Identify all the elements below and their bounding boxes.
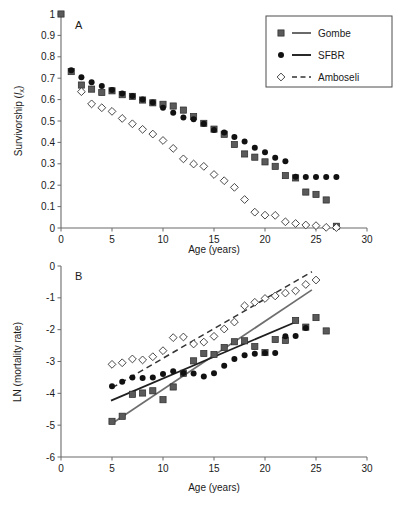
- y-tick-label: 1: [49, 9, 55, 20]
- marker-diamond: [241, 302, 249, 310]
- x-tick-label: 10: [157, 234, 169, 245]
- y-tick-label: 0.1: [41, 201, 55, 212]
- series-sfbr: [109, 325, 309, 389]
- marker-circle: [303, 325, 309, 331]
- marker-diamond: [231, 183, 239, 191]
- marker-circle: [170, 368, 176, 374]
- legend-label-amboseli: Amboseli: [318, 72, 359, 83]
- marker-diamond: [169, 334, 177, 342]
- marker-circle: [140, 375, 146, 381]
- marker-diamond: [220, 325, 228, 333]
- marker-square: [262, 159, 268, 165]
- marker-circle: [140, 97, 146, 103]
- panel-a-svg: 00.10.20.30.40.50.60.70.80.91 0510152025…: [0, 0, 402, 258]
- marker-diamond: [118, 359, 126, 367]
- marker-square: [140, 390, 146, 396]
- marker-diamond: [312, 276, 320, 284]
- marker-diamond: [180, 155, 188, 163]
- marker-circle: [313, 174, 319, 180]
- marker-square: [160, 397, 166, 403]
- panel-b-y-axis-title: LN (mortality rate): [12, 322, 23, 402]
- x-tick-label: 20: [259, 463, 271, 474]
- marker-square: [231, 339, 237, 345]
- marker-square: [252, 154, 258, 160]
- marker-circle: [109, 87, 115, 93]
- marker-circle: [129, 93, 135, 99]
- marker-square: [119, 413, 125, 419]
- marker-circle: [282, 158, 288, 164]
- y-tick-label: -4: [46, 388, 55, 399]
- series-gombe: [109, 314, 329, 424]
- marker-diamond: [159, 347, 167, 355]
- marker-diamond: [271, 292, 279, 300]
- marker-square: [170, 384, 176, 390]
- marker-diamond: [129, 355, 137, 363]
- marker-circle: [262, 350, 268, 356]
- marker-circle: [231, 134, 237, 140]
- marker-diamond: [169, 144, 177, 152]
- panel-b-svg: 0-1-2-3-4-5-6 051015202530 B Age (years)…: [0, 258, 402, 517]
- x-tick-label: 0: [58, 463, 64, 474]
- marker-square: [180, 107, 186, 113]
- marker-diamond: [302, 281, 310, 289]
- panel-a-survivorship: 00.10.20.30.40.50.60.70.80.91 0510152025…: [0, 0, 402, 258]
- marker-square: [252, 343, 258, 349]
- marker-diamond: [251, 298, 259, 306]
- marker-square: [99, 89, 105, 95]
- marker-diamond: [282, 218, 290, 226]
- marker-circle: [160, 105, 166, 111]
- y-tick-label: -3: [46, 356, 55, 367]
- marker-square: [303, 189, 309, 195]
- svg-text:Survivorship (lx): Survivorship (lx): [13, 86, 26, 156]
- x-tick-label: 5: [109, 234, 115, 245]
- series-amboseli: [78, 88, 341, 232]
- legend-label-sfbr: SFBR: [318, 50, 345, 61]
- marker-square: [293, 317, 299, 323]
- marker-circle: [293, 174, 299, 180]
- x-tick-label: 25: [310, 463, 322, 474]
- marker-diamond: [231, 318, 239, 326]
- marker-diamond: [261, 211, 269, 219]
- fit-line-amboseli-fit: [112, 272, 312, 388]
- marker-circle: [170, 110, 176, 116]
- marker-circle: [252, 351, 258, 357]
- y-tick-label: 0.5: [41, 116, 55, 127]
- marker-diamond: [98, 104, 106, 112]
- marker-square: [313, 314, 319, 320]
- marker-diamond: [139, 356, 147, 364]
- y-tick-label: 0.7: [41, 73, 55, 84]
- marker-diamond: [159, 137, 167, 145]
- marker-circle: [119, 91, 125, 97]
- marker-diamond: [241, 196, 249, 204]
- marker-circle: [303, 174, 309, 180]
- y-tick-label: 0: [49, 223, 55, 234]
- legend[interactable]: GombeSFBRAmboseli: [266, 16, 392, 87]
- marker-square: [231, 141, 237, 147]
- marker-diamond: [149, 130, 157, 138]
- marker-circle: [109, 383, 115, 389]
- y-tick-label: -1: [46, 292, 55, 303]
- x-tick-label: 10: [157, 463, 169, 474]
- marker-circle: [119, 379, 125, 385]
- marker-diamond: [108, 107, 116, 115]
- panel-b-x-axis-title: Age (years): [188, 482, 240, 493]
- marker-circle: [160, 371, 166, 377]
- y-tick-label: 0.3: [41, 158, 55, 169]
- marker-square: [109, 418, 115, 424]
- marker-square: [323, 328, 329, 334]
- marker-square: [323, 197, 329, 203]
- marker-diamond: [220, 177, 228, 185]
- marker-circle: [221, 130, 227, 136]
- marker-circle: [180, 370, 186, 376]
- marker-square: [129, 391, 135, 397]
- panel-b-mortality: 0-1-2-3-4-5-6 051015202530 B Age (years)…: [0, 258, 402, 517]
- marker-circle: [129, 374, 135, 380]
- panel-b-data-points: [108, 276, 329, 424]
- marker-square: [221, 344, 227, 350]
- marker-circle: [272, 155, 278, 161]
- marker-square: [272, 336, 278, 342]
- marker-circle: [242, 352, 248, 358]
- marker-circle: [78, 74, 84, 80]
- marker-diamond: [200, 338, 208, 346]
- marker-square: [242, 151, 248, 157]
